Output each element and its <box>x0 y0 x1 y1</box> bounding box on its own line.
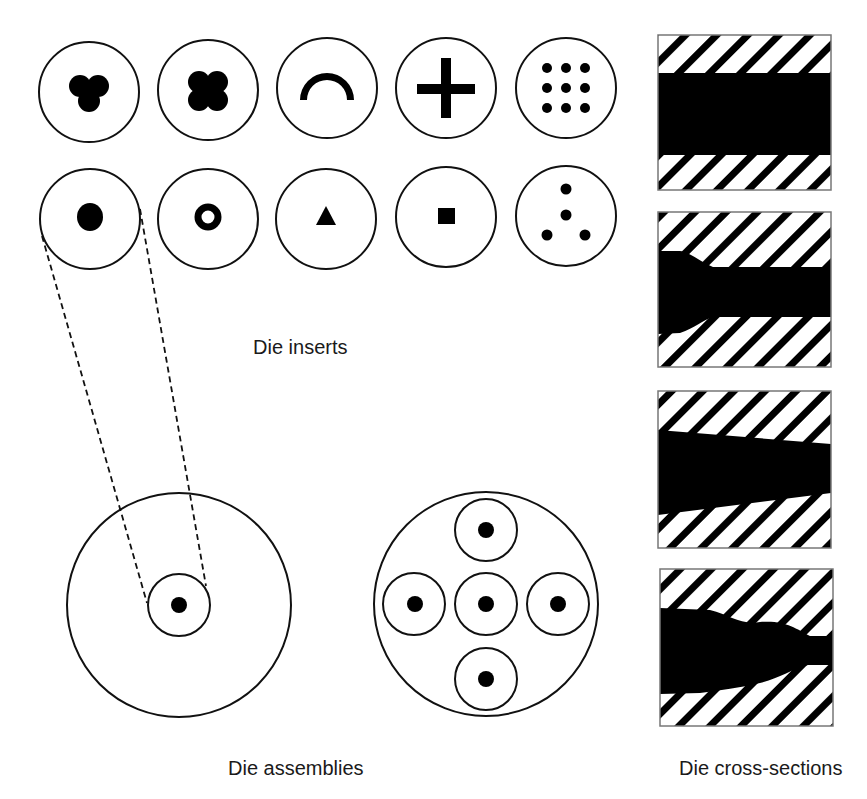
insert-arc <box>277 38 377 138</box>
die-cross-sections-label: Die cross-sections <box>679 757 842 780</box>
cross-section-3 <box>658 391 831 548</box>
projection-lines <box>42 209 206 603</box>
insert-single-dot <box>40 169 140 269</box>
insert-row-1 <box>39 38 616 142</box>
insert-trefoil <box>39 42 139 142</box>
insert-four-dots <box>516 166 616 266</box>
assembly-five-inserts <box>374 492 598 716</box>
insert-cross <box>396 38 496 138</box>
insert-triangle <box>276 169 376 269</box>
insert-square <box>396 167 496 267</box>
cross-section-1 <box>658 35 831 190</box>
assembly-single-insert <box>67 493 291 717</box>
cross-section-2 <box>658 212 831 367</box>
insert-row-2 <box>40 166 616 269</box>
insert-ring <box>158 169 258 269</box>
die-diagram <box>0 0 867 799</box>
insert-quatrefoil <box>158 40 258 140</box>
die-assemblies-label: Die assemblies <box>228 757 364 780</box>
insert-dot-grid <box>516 38 616 138</box>
die-inserts-label: Die inserts <box>253 336 347 359</box>
cross-section-4 <box>660 569 833 726</box>
